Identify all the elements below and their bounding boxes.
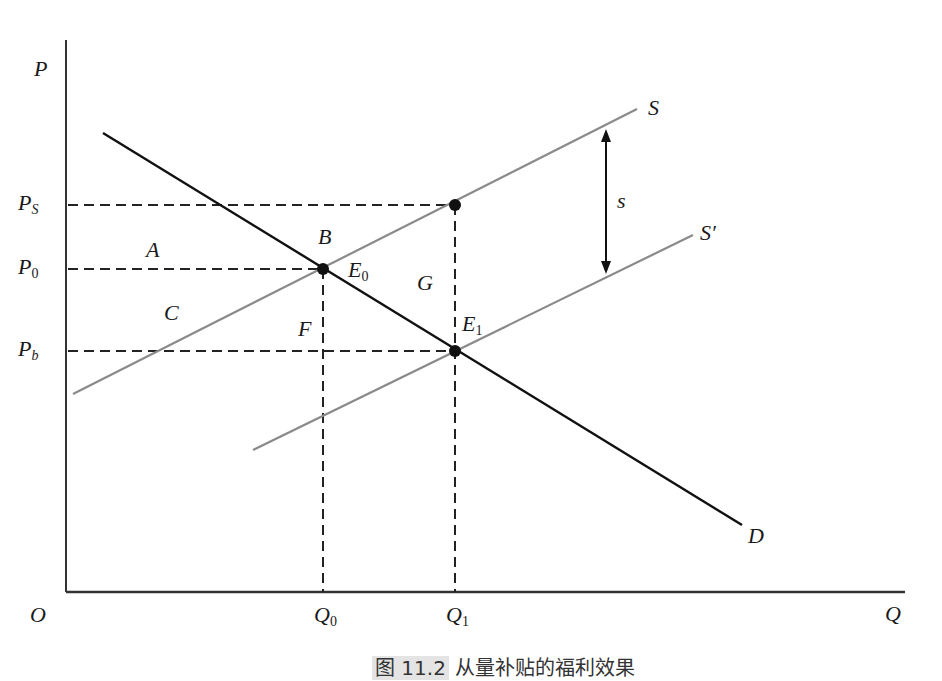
pb-label-sub: b: [31, 348, 38, 363]
equilibrium-point-e1: [449, 345, 461, 357]
ps-label-sub: S: [31, 202, 38, 217]
origin-label: O: [30, 604, 46, 626]
pb-label: Pb: [18, 338, 38, 363]
figure-number: 图 11.2: [372, 656, 449, 680]
region-c-label: C: [164, 302, 179, 324]
region-f-label: F: [298, 318, 311, 340]
demand-curve-d: [103, 133, 742, 525]
p-axis-label: P: [34, 58, 47, 80]
q1-label-sub: 1: [462, 614, 469, 629]
pb-label-main: P: [18, 336, 31, 361]
q0-label-sub: 0: [330, 614, 337, 629]
q1-label: Q1: [446, 604, 469, 629]
q0-label-main: Q: [314, 602, 330, 627]
e0-label: E0: [348, 259, 368, 284]
p0-label-sub: 0: [31, 266, 38, 281]
e0-label-main: E: [348, 257, 361, 282]
subsidy-arrow: [601, 129, 611, 274]
curve-s-label: S: [648, 97, 659, 119]
e1-label-main: E: [462, 311, 475, 336]
equilibrium-point-e0: [317, 263, 329, 275]
curve-s-prime-label: S′: [700, 222, 716, 244]
ps-label: PS: [18, 192, 38, 217]
q0-label: Q0: [314, 604, 337, 629]
q1-label-main: Q: [446, 602, 462, 627]
e0-label-sub: 0: [361, 269, 368, 284]
figure-caption: 图 11.2 从量补贴的福利效果: [372, 652, 635, 681]
e1-label-sub: 1: [475, 323, 482, 338]
supply-price-point: [449, 199, 461, 211]
region-g-label: G: [417, 272, 433, 294]
q-axis-label: Q: [885, 603, 901, 625]
figure-caption-text: 从量补贴的福利效果: [455, 656, 635, 680]
subsidy-label: s: [617, 190, 626, 212]
curve-d-label: D: [748, 525, 764, 547]
ps-label-main: P: [18, 190, 31, 215]
region-b-label: B: [318, 226, 331, 248]
e1-label: E1: [462, 313, 482, 338]
p0-label: P0: [18, 256, 38, 281]
p0-label-main: P: [18, 254, 31, 279]
region-a-label: A: [146, 239, 159, 261]
